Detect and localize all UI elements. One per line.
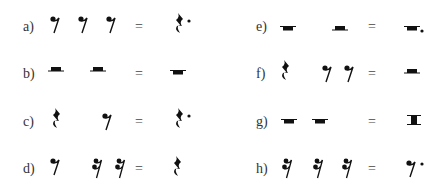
exercise-b: b) = [0, 60, 224, 90]
exercise-c: c) = [0, 108, 224, 138]
exercise-h: h) = [224, 155, 448, 185]
sixteenth-rest-icon [313, 158, 323, 180]
quarter-rest-icon [175, 13, 185, 35]
double-whole-rest-icon [407, 114, 421, 126]
quarter-rest-icon [281, 60, 291, 82]
eighth-rest-icon [406, 159, 416, 179]
exercise-label: g) [256, 115, 268, 129]
equals-sign: = [368, 115, 376, 129]
whole-rest-icon [281, 117, 297, 125]
eighth-rest-icon [50, 15, 60, 35]
half-rest-icon [90, 64, 106, 72]
exercise-d: d) = [0, 155, 224, 185]
dot-icon [420, 29, 424, 33]
exercise-label: f) [256, 67, 265, 81]
whole-rest-icon [404, 24, 420, 32]
equals-sign: = [135, 162, 143, 176]
sixteenth-rest-icon [92, 158, 102, 180]
half-rest-icon [48, 64, 64, 72]
eighth-rest-icon [102, 112, 112, 132]
equals-sign: = [368, 162, 376, 176]
half-rest-icon [332, 23, 348, 31]
whole-rest-icon [280, 24, 296, 32]
equals-sign: = [135, 67, 143, 81]
quarter-rest-icon [52, 108, 62, 130]
exercise-f: f) = [224, 60, 448, 90]
half-rest-icon [404, 66, 420, 74]
equals-sign: = [368, 67, 376, 81]
exercise-label: a) [23, 20, 34, 34]
exercise-label: e) [256, 20, 267, 34]
dot-icon [187, 19, 191, 23]
whole-rest-icon [170, 68, 186, 76]
sixteenth-rest-icon [342, 158, 352, 180]
dot-icon [420, 162, 424, 166]
eighth-rest-icon [78, 15, 88, 35]
whole-rest-icon [312, 117, 328, 125]
quarter-rest-icon [175, 108, 185, 130]
sixteenth-rest-icon [282, 158, 292, 180]
dot-icon [187, 114, 191, 118]
sixteenth-rest-icon [115, 158, 125, 180]
eighth-rest-icon [106, 15, 116, 35]
equals-sign: = [135, 115, 143, 129]
equals-sign: = [368, 20, 376, 34]
exercise-label: c) [23, 115, 34, 129]
exercise-label: b) [23, 67, 35, 81]
exercise-g: g) = [224, 108, 448, 138]
exercise-e: e) = [224, 13, 448, 43]
quarter-rest-icon [173, 156, 183, 178]
equals-sign: = [135, 20, 143, 34]
exercise-label: h) [256, 162, 268, 176]
eighth-rest-icon [344, 64, 354, 84]
exercise-a: a) = [0, 13, 224, 43]
eighth-rest-icon [322, 64, 332, 84]
eighth-rest-icon [50, 157, 60, 177]
exercise-label: d) [23, 162, 35, 176]
